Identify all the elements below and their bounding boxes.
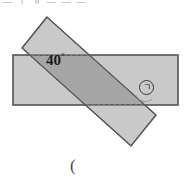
angle-label: 40°: [46, 52, 65, 68]
degree-symbol: °: [61, 51, 65, 61]
clipped-top-text: ㅡ ㅣ ㅐ ㅡ ㅡ ㅡ: [2, 0, 122, 4]
circled-marker: ㄱ: [139, 80, 154, 95]
angle-value: 40: [46, 52, 61, 68]
geometry-figure: 40° ㄱ ㅡ ㅣ ㅐ ㅡ ㅡ ㅡ (: [0, 0, 191, 182]
clipped-bottom-text: (: [70, 157, 180, 182]
figure-canvas: [0, 0, 191, 182]
marker-symbol: ㄱ: [143, 83, 151, 92]
